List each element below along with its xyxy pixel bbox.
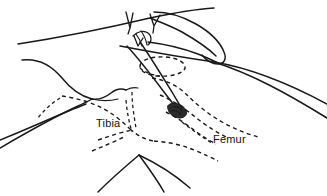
label-femur: Femur [213,133,246,145]
knee-examination-drawing: Tibia Femur [0,0,327,196]
anatomical-figure: Tibia Femur [0,0,327,196]
label-tibia: Tibia [96,117,121,129]
figure-background [0,0,327,196]
